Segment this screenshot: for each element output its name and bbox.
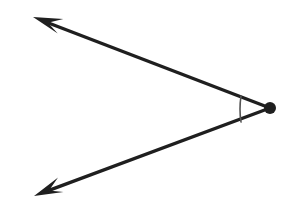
angle-diagram-svg <box>0 0 288 214</box>
vertex-point-marker <box>264 102 276 114</box>
diagram-background <box>0 0 288 214</box>
angle-diagram-canvas <box>0 0 288 214</box>
